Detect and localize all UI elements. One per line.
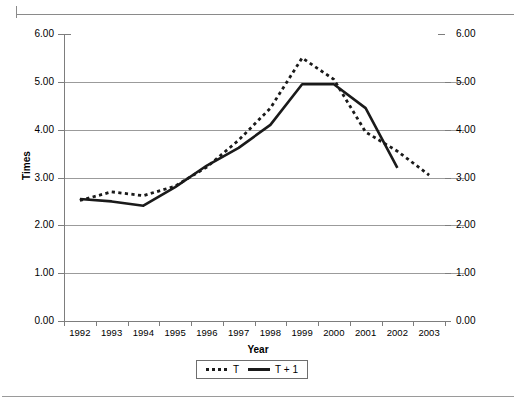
dotted-line-swatch-icon: [206, 368, 228, 371]
scanned-page: Times Year 0.001.002.003.004.005.006.00 …: [0, 0, 516, 411]
line-chart: Times Year 0.001.002.003.004.005.006.00 …: [0, 0, 516, 396]
solid-line-swatch-icon: [248, 368, 270, 371]
series-line-t-plus-1: [80, 84, 398, 206]
series-layer: [0, 0, 516, 396]
legend-label-t: T: [233, 364, 239, 375]
legend-label-t-plus-1: T + 1: [275, 364, 298, 375]
legend-item-t: T: [206, 364, 239, 375]
legend-item-t-plus-1: T + 1: [248, 364, 298, 375]
chart-legend: T T + 1: [196, 360, 308, 379]
page-rule-bottom: [2, 396, 514, 397]
